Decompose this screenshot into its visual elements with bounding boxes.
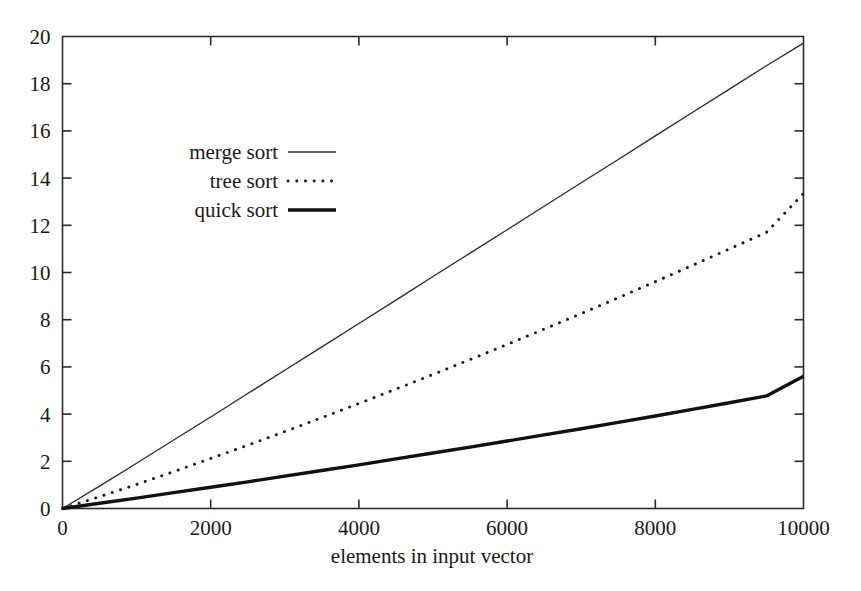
y-tick-label: 6 [40, 355, 51, 379]
x-tick-label: 10000 [777, 516, 830, 540]
y-tick-label: 12 [30, 214, 51, 238]
y-tick-label: 14 [30, 167, 52, 191]
y-tick-label: 8 [40, 308, 51, 332]
y-tick-label: 4 [40, 403, 51, 427]
x-tick-label: 0 [57, 516, 68, 540]
y-tick-label: 16 [30, 119, 51, 143]
line-chart-canvas: 0200040006000800010000 02468101214161820… [0, 0, 861, 591]
legend-label-quick-sort: quick sort [195, 198, 279, 222]
y-tick-label: 2 [40, 450, 51, 474]
y-tick-label: 0 [40, 497, 51, 521]
chart-legend: merge sorttree sortquick sort [189, 140, 336, 222]
chart-background [0, 0, 861, 591]
y-tick-label: 20 [30, 25, 51, 49]
legend-label-merge-sort: merge sort [189, 140, 278, 164]
x-tick-label: 2000 [190, 516, 232, 540]
x-tick-label: 8000 [634, 516, 676, 540]
legend-label-tree-sort: tree sort [210, 169, 278, 193]
y-tick-label: 18 [30, 72, 51, 96]
chart-figure: 0200040006000800010000 02468101214161820… [0, 0, 861, 591]
x-tick-label: 4000 [338, 516, 380, 540]
x-axis-title: elements in input vector [331, 544, 533, 568]
y-tick-label: 10 [30, 261, 51, 285]
x-tick-label: 6000 [486, 516, 528, 540]
